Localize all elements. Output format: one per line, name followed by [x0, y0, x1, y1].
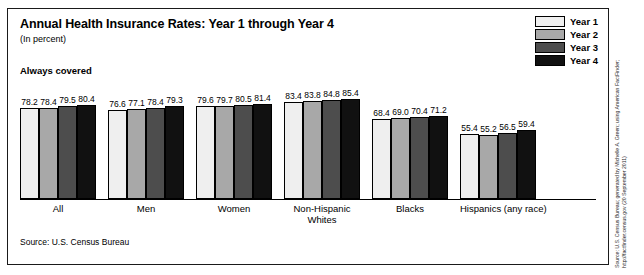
bar-groups: 78.278.479.580.476.677.178.479.379.679.7… [20, 81, 596, 199]
bar [498, 133, 517, 199]
legend-item-4: Year 4 [535, 54, 598, 66]
figure-border: Annual Health Insurance Rates: Year 1 th… [7, 8, 609, 265]
bar [517, 130, 536, 199]
bar-column: 81.4 [253, 81, 272, 199]
category-label: Blacks [372, 203, 448, 225]
bar-value-label: 71.2 [419, 105, 459, 115]
legend-swatch-icon [535, 29, 565, 40]
legend-swatch-icon [535, 16, 565, 27]
bar [372, 119, 391, 199]
side-credit-text: Source: U.S. Census Bureau; generated by… [614, 6, 640, 268]
bar [253, 104, 272, 199]
category-label: Non-HispanicWhites [284, 203, 360, 225]
category-label-line: Men [108, 203, 184, 214]
bar-column: 71.2 [429, 81, 448, 199]
bar [77, 105, 96, 199]
bar [341, 99, 360, 199]
bar-group: 55.455.256.559.4 [460, 81, 536, 199]
legend-item-3: Year 3 [535, 41, 598, 53]
category-label-line: Whites [284, 214, 360, 225]
bar [165, 106, 184, 199]
chart-page: Annual Health Insurance Rates: Year 1 th… [0, 0, 644, 275]
bar-column: 56.5 [498, 81, 517, 199]
bar [322, 100, 341, 199]
x-axis-line [20, 199, 596, 200]
bar [39, 108, 58, 199]
bar-column: 68.4 [372, 81, 391, 199]
legend-swatch-icon [535, 42, 565, 53]
category-label-line: Blacks [372, 203, 448, 214]
legend-swatch-icon [535, 55, 565, 66]
bar-column: 69.0 [391, 81, 410, 199]
bar [410, 117, 429, 199]
bar-column: 85.4 [341, 81, 360, 199]
bar [215, 106, 234, 199]
bar [108, 110, 127, 199]
bar [127, 109, 146, 199]
category-label-line: Hispanics (any race) [460, 203, 536, 214]
category-label: Hispanics (any race) [460, 203, 536, 225]
bar-column: 84.8 [322, 81, 341, 199]
bar-group: 79.679.780.581.4 [196, 81, 272, 199]
bar-column: 55.4 [460, 81, 479, 199]
bar [196, 106, 215, 199]
source-note: Source: U.S. Census Bureau [20, 237, 129, 247]
bar-group: 68.469.070.471.2 [372, 81, 448, 199]
bar [20, 108, 39, 199]
bar [284, 102, 303, 199]
category-label: Women [196, 203, 272, 225]
category-label-line: Women [196, 203, 272, 214]
bar-column: 70.4 [410, 81, 429, 199]
category-label: Men [108, 203, 184, 225]
category-label-line: All [20, 203, 96, 214]
legend-label: Year 1 [570, 16, 598, 27]
bar-group: 78.278.479.580.4 [20, 81, 96, 199]
bar-column: 55.2 [479, 81, 498, 199]
legend-label: Year 4 [570, 55, 598, 66]
bar-column: 79.3 [165, 81, 184, 199]
plot-area: 78.278.479.580.476.677.178.479.379.679.7… [20, 81, 596, 213]
bar [303, 101, 322, 199]
category-label-line: Non-Hispanic [284, 203, 360, 214]
bar [58, 106, 77, 199]
chart-subtitle: (In percent) [20, 34, 66, 44]
category-label: All [20, 203, 96, 225]
bar-value-label: 59.4 [507, 119, 547, 129]
side-credit: Source: U.S. Census Bureau; generated by… [614, 6, 640, 268]
bar-column: 59.4 [517, 81, 536, 199]
bar [429, 116, 448, 199]
legend-item-2: Year 2 [535, 28, 598, 40]
bar [460, 134, 479, 199]
bar-column: 80.4 [77, 81, 96, 199]
legend-label: Year 3 [570, 42, 598, 53]
legend-label: Year 2 [570, 29, 598, 40]
bar-value-label: 85.4 [331, 88, 371, 98]
chart-title: Annual Health Insurance Rates: Year 1 th… [20, 17, 334, 31]
bar-group: 76.677.178.479.3 [108, 81, 184, 199]
bar-group: 83.483.884.885.4 [284, 81, 360, 199]
bar [234, 105, 253, 199]
bar [146, 108, 165, 199]
category-labels: AllMenWomenNon-HispanicWhitesBlacksHispa… [20, 203, 596, 225]
chart-section-label: Always covered [20, 65, 92, 76]
bar [391, 118, 410, 199]
chart-legend: Year 1Year 2Year 3Year 4 [535, 15, 598, 66]
bar [479, 135, 498, 199]
legend-item-1: Year 1 [535, 15, 598, 27]
